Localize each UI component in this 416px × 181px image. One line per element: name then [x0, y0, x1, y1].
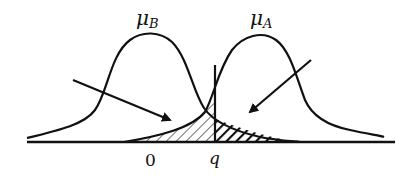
arrow-left: [73, 80, 170, 120]
tick-label-zero: 0: [145, 150, 156, 170]
label-mu-a: μA: [250, 6, 272, 31]
distribution-curve-a: [124, 35, 384, 142]
right-hatched-region: [215, 119, 295, 142]
mu-b-subscript: B: [149, 16, 159, 31]
arrow-right: [250, 60, 311, 112]
tick-label-q: q: [209, 148, 220, 168]
distribution-curve-b: [27, 33, 300, 142]
distribution-diagram: [0, 0, 416, 181]
label-mu-b: μB: [136, 6, 159, 31]
mu-a-subscript: A: [263, 16, 272, 31]
mu-a-symbol: μ: [250, 6, 263, 30]
mu-b-symbol: μ: [136, 6, 149, 30]
